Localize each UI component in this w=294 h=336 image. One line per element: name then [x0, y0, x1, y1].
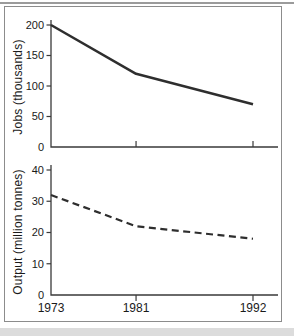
y-tick-label: 10: [32, 258, 44, 270]
y-tick-label: 150: [26, 49, 44, 61]
figure-panel: Jobs (thousands) Output (million tonnes)…: [4, 6, 282, 322]
y-tick-label: 50: [32, 110, 44, 122]
x-tick-label: 1973: [38, 301, 65, 315]
axis: [51, 20, 278, 147]
y-tick-label: 0: [38, 289, 44, 301]
x-tick-label: 1981: [123, 301, 150, 315]
output-line: [51, 195, 253, 239]
y-tick-label: 20: [32, 226, 44, 238]
y-tick-label: 40: [32, 164, 44, 176]
y-tick-label: 200: [26, 19, 44, 31]
y-tick-label: 30: [32, 195, 44, 207]
top-rule: [0, 2, 294, 4]
bottom-strip: [0, 328, 294, 336]
jobs-line: [51, 25, 253, 104]
x-tick-label: 1992: [240, 301, 267, 315]
y-tick-label: 100: [26, 80, 44, 92]
y-tick-label: 0: [38, 141, 44, 153]
charts-canvas: 050100150200010203040197319811992: [5, 7, 281, 321]
